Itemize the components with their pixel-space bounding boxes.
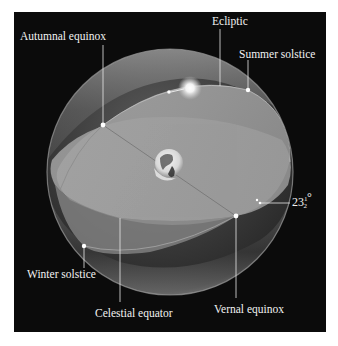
autumnal-equinox-label: Autumnal equinox	[20, 30, 106, 43]
celestial-sphere-diagram: Autumnal equinox Ecliptic Summer solstic…	[0, 0, 338, 346]
vernal-equinox-label: Vernal equinox	[214, 303, 284, 316]
summer-solstice-label: Summer solstice	[239, 48, 315, 60]
ecliptic-label: Ecliptic	[212, 15, 248, 28]
tilt-whole: 23	[292, 195, 304, 209]
winter-solstice-label: Winter solstice	[27, 268, 96, 280]
tilt-unit: °	[307, 190, 312, 204]
celestial-equator-label: Celestial equator	[95, 307, 173, 320]
